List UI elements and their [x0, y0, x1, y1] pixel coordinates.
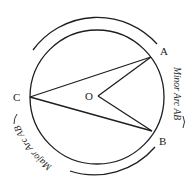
- minor-arc-label: Minor Arc AB: [172, 66, 185, 128]
- major-arc-symbol: [14, 114, 17, 124]
- minor-arc-symbol: [183, 116, 185, 128]
- radius-oa: [98, 57, 151, 96]
- svg-text:Minor Arc AB: Minor Arc AB: [172, 66, 182, 120]
- minor-arc-name: AB: [172, 108, 182, 121]
- major-arc-outer-bottom: [70, 147, 155, 175]
- circle-arc-diagram: A B C O Minor Arc AB Major Arc AB: [0, 0, 195, 186]
- point-label-o: O: [85, 90, 93, 102]
- circle: [30, 30, 164, 164]
- point-label-a: A: [160, 45, 168, 57]
- major-arc-label: Major Arc AB: [12, 114, 54, 173]
- svg-text:Major Arc AB: Major Arc AB: [12, 124, 54, 173]
- point-label-b: B: [159, 135, 166, 147]
- radius-ob: [98, 96, 152, 131]
- point-label-c: C: [13, 91, 20, 103]
- chord-cb: [30, 97, 152, 131]
- minor-arc-prefix: Minor Arc: [172, 66, 182, 109]
- major-arc-prefix: Major Arc: [17, 134, 54, 173]
